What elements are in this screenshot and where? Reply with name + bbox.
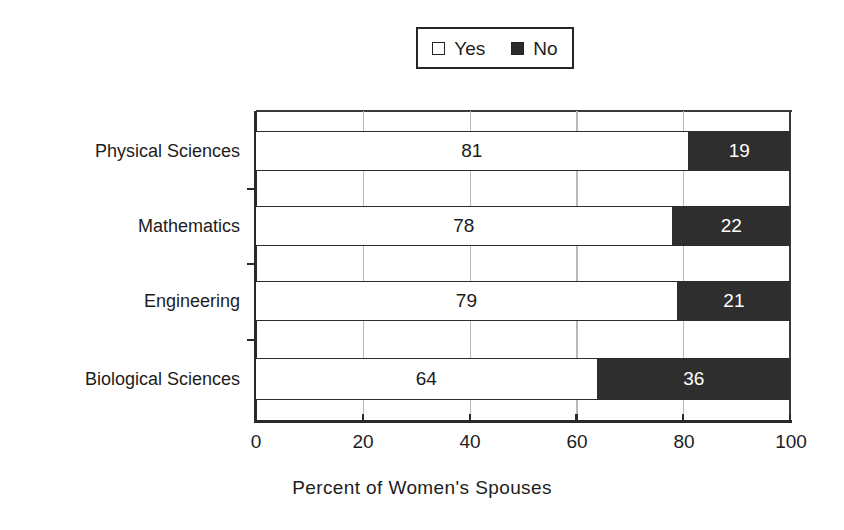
bar-segment-yes[interactable]: 64 [256,359,598,399]
bar-segment-yes[interactable]: 81 [256,132,689,170]
bar-segment-no[interactable]: 36 [598,359,790,399]
y-axis-tick [247,188,256,190]
chart-plot: 81 19 78 22 79 21 64 36 Physical Science [0,0,844,530]
bar-value-label-no: 22 [721,215,742,237]
bar-value-label-no: 21 [723,290,744,312]
x-axis-tick-label-60: 60 [566,431,587,453]
y-axis-tick [247,339,256,341]
bar-segment-yes[interactable]: 79 [256,282,678,320]
y-axis-label-engineering: Engineering [144,291,240,312]
y-axis-label-mathematics: Mathematics [138,216,240,237]
x-axis-tick [682,414,684,423]
x-axis-tick [575,414,577,423]
table-row[interactable]: 79 21 [256,281,790,321]
bar-value-label-yes: 64 [416,368,437,390]
x-axis-tick [255,414,257,423]
bar-value-label-yes: 81 [461,140,482,162]
bar-value-label-no: 19 [729,140,750,162]
x-axis-title: Percent of Women's Spouses [0,477,844,499]
x-axis-tick [789,414,791,423]
bar-segment-no[interactable]: 22 [673,207,790,245]
bar-segment-yes[interactable]: 78 [256,207,673,245]
table-row[interactable]: 64 36 [256,358,790,400]
bar-segment-no[interactable]: 19 [689,132,790,170]
x-axis-line [254,420,792,423]
y-axis-label-biological-sciences: Biological Sciences [85,369,240,390]
y-axis-label-physical-sciences: Physical Sciences [95,141,240,162]
bar-segment-no[interactable]: 21 [678,282,790,320]
x-axis-tick-label-80: 80 [673,431,694,453]
x-axis-tick-label-100: 100 [775,431,807,453]
plot-top-border [256,110,792,112]
x-axis-tick [362,414,364,423]
table-row[interactable]: 78 22 [256,206,790,246]
bar-value-label-yes: 79 [456,290,477,312]
x-axis-tick [469,414,471,423]
bar-value-label-yes: 78 [453,215,474,237]
bar-value-label-no: 36 [683,368,704,390]
x-axis-tick-label-20: 20 [352,431,373,453]
y-axis-tick [247,263,256,265]
x-axis-tick-label-0: 0 [251,431,262,453]
table-row[interactable]: 81 19 [256,131,790,171]
x-axis-tick-label-40: 40 [459,431,480,453]
